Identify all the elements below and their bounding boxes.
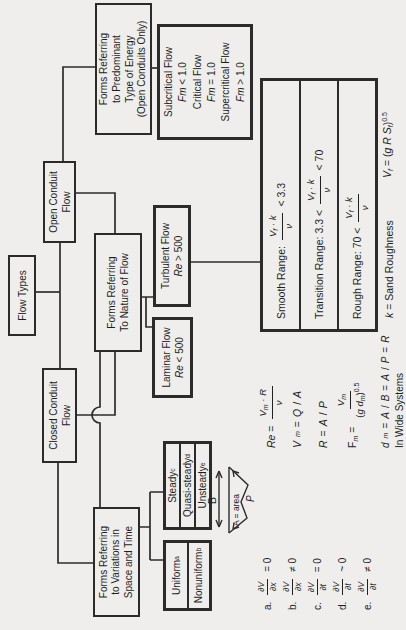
rough-range-row: Rough Range: 70 < Vf · k ν <box>337 81 375 329</box>
flow-types-box: Flow Types <box>8 255 36 336</box>
open-conduit-box: Open Conduit Flow <box>43 161 76 243</box>
rough-range-fraction: Vf · k ν <box>344 194 370 222</box>
closed-to-nature-line <box>77 352 115 415</box>
open-conduit-line2: Flow <box>60 191 73 212</box>
forms-nature-line1: Forms Referring <box>105 256 118 328</box>
transition-range-row: Transition Range: 3.3 < Vf · k ν < 70 <box>299 81 337 329</box>
variations-children-fork <box>140 492 163 560</box>
closed-conduit-box: Closed Conduit Flow <box>42 368 77 463</box>
footnote-c-fraction: ∂V ∂t <box>307 579 328 595</box>
transition-range-limit: < 70 <box>313 150 326 171</box>
laminar-flow-box: Laminar Flow Re < 500 <box>152 317 193 398</box>
area-label: A = area <box>231 494 241 526</box>
reynolds-fraction: Vm · R ν <box>258 386 284 420</box>
critical-froude-label: Fm = 1.0 <box>205 62 219 102</box>
supercritical-froude-label: Fm > 1.0 <box>234 62 248 102</box>
forms-variations-line3: Space and Time <box>123 526 136 598</box>
footnote-c: c. ∂V ∂t = 0 <box>307 558 328 610</box>
open-to-nature-line <box>76 193 115 233</box>
reynolds-formula: Re = Vm · R ν <box>258 384 284 448</box>
variations-nature-hop-line <box>92 352 100 507</box>
footnote-b: b. ∂V ∂x ≠ 0 <box>282 558 303 610</box>
uniform-cell: Uniforma <box>166 543 187 608</box>
open-to-energy-line <box>63 67 95 161</box>
closed-conduit-line2: Flow <box>60 405 73 426</box>
smooth-range-row: Smooth Range: Vf · k ν < 3.3 <box>263 81 299 329</box>
quasi-steady-cell: Quasi-steadyd <box>179 444 194 527</box>
subcritical-froude-label: Fm < 1.0 <box>176 62 190 102</box>
subcritical-flow-label: Subcritical Flow <box>162 47 176 117</box>
forms-variations-line1: Forms Referring <box>98 526 111 598</box>
sand-roughness-definition: k = Sand Roughness <box>383 220 395 318</box>
footnote-d-fraction: ∂V ∂t <box>332 579 353 595</box>
forms-energy-box: Forms Referring to Predominant Type of E… <box>95 3 152 135</box>
rough-range-label: Rough Range: 70 < <box>351 228 364 319</box>
footnote-e: e. ∂V ∂t ≠ 0 <box>357 558 378 610</box>
wetted-perimeter-label: P <box>245 495 256 502</box>
forms-nature-line2: To Nature of Flow <box>118 253 131 331</box>
forms-energy-line2: to Predominant <box>111 35 124 103</box>
diagram-canvas: Flow Types Closed Conduit Flow Open Cond… <box>0 0 406 630</box>
flow-types-label: Flow Types <box>16 270 29 320</box>
footnote-d: d. ∂V ∂t ~ 0 <box>332 558 353 610</box>
shear-velocity-definition: Vf = (g R Sf)0.5 <box>381 112 394 178</box>
unsteady-cell: Unsteadye <box>194 444 209 527</box>
footnote-b-fraction: ∂V ∂x <box>282 579 303 595</box>
closed-to-variations-line <box>58 463 93 563</box>
smooth-range-label: Smooth Range: <box>275 246 288 319</box>
nonuniform-cell: Nonuniformb <box>187 543 210 608</box>
forms-nature-box: Forms Referring To Nature of Flow <box>94 233 142 352</box>
froude-formula: Fm = Vm (g dm)0.5 <box>336 378 368 448</box>
scanned-flow-types-diagram: Flow Types Closed Conduit Flow Open Cond… <box>0 0 406 630</box>
open-conduit-line1: Open Conduit <box>47 171 60 233</box>
critical-flow-label: Critical Flow <box>191 55 205 109</box>
turbulent-reynolds-label: Re > 500 <box>172 236 185 277</box>
subcritical-box: Subcritical Flow Fm < 1.0 Critical Flow … <box>157 24 253 140</box>
laminar-flow-label: Laminar Flow <box>160 327 173 387</box>
steady-cell: Steadyc <box>166 444 179 527</box>
closed-conduit-line1: Closed Conduit <box>47 381 60 449</box>
mean-velocity-formula: Vm = Q/A <box>291 391 303 448</box>
mean-depth-formula: dm = A/B = A/P = R <box>380 336 391 448</box>
forms-energy-line1: Forms Referring <box>98 33 111 105</box>
transition-range-fraction: Vf · k ν <box>306 176 332 204</box>
wide-systems-note: In Wide Systems <box>394 373 405 448</box>
forms-energy-line4: (Open Conduits Only) <box>136 21 149 118</box>
supercritical-flow-label: Supercritical Flow <box>219 43 233 122</box>
top-width-label: B <box>206 497 218 504</box>
forms-energy-line3: Type of Energy <box>124 35 137 102</box>
footnote-a-fraction: ∂V ∂x <box>257 579 278 595</box>
turbulent-flow-label: Turbulent Flow <box>159 223 172 289</box>
uniform-group-box: Uniforma Nonuniformb <box>163 540 212 611</box>
laminar-reynolds-label: Re < 500 <box>173 337 186 378</box>
froude-fraction: Vm (g dm)0.5 <box>336 380 368 421</box>
turbulent-flow-box: Turbulent Flow Re > 500 <box>153 205 191 307</box>
steady-group-box: Steadyc Quasi-steadyd Unsteadye <box>163 441 212 530</box>
smooth-range-fraction: Vf · k ν <box>268 213 294 241</box>
footnote-e-fraction: ∂V ∂t <box>357 579 378 595</box>
smooth-range-limit: < 3.3 <box>275 183 288 207</box>
hydraulic-radius-formula: R = A/P <box>317 401 329 448</box>
footnote-a: a. ∂V ∂x = 0 <box>257 558 278 610</box>
forms-variations-box: Forms Referring to Variations in Space a… <box>93 507 140 617</box>
transition-range-label: Transition Range: 3.3 < <box>313 210 326 319</box>
forms-variations-line2: to Variations in <box>110 529 123 594</box>
roughness-range-table: Smooth Range: Vf · k ν < 3.3 Transition … <box>260 78 378 332</box>
